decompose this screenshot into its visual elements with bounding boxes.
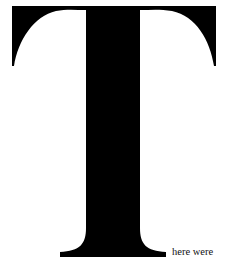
- paragraph-text: here were: [172, 246, 213, 258]
- document-page: here were: [0, 0, 234, 260]
- drop-cap-letter-t: [0, 0, 234, 260]
